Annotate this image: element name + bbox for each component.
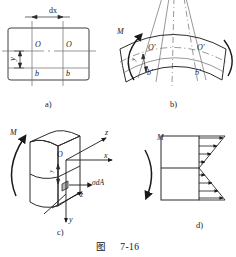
panel-d-label-moment: M bbox=[157, 134, 164, 142]
figure-caption-number: 7-16 bbox=[120, 242, 139, 252]
panel-d-moment-arrow bbox=[145, 150, 152, 196]
panel-a-label-b-left: b bbox=[35, 70, 39, 78]
figure-caption: 图 7-16 bbox=[0, 239, 236, 253]
beam-left-edge bbox=[120, 49, 126, 82]
block-front-face bbox=[30, 140, 58, 207]
panel-a-label-b-right: b bbox=[66, 70, 70, 78]
dx-arrow-left bbox=[32, 15, 37, 19]
panel-c-label-axis-z-lower: z bbox=[80, 191, 83, 199]
axis-z-lower-arrow bbox=[52, 192, 82, 208]
panel-a-tag: a) bbox=[45, 100, 52, 109]
figure-caption-prefix: 图 bbox=[96, 241, 107, 252]
panel-b-drawing bbox=[114, 0, 236, 110]
panel-b-label-origin-left: O' bbox=[148, 44, 156, 52]
stress-element-fill bbox=[62, 181, 68, 191]
panel-d-tag: d) bbox=[196, 221, 203, 230]
y-arrow-down bbox=[18, 63, 21, 68]
panel-c-drawing bbox=[0, 124, 130, 236]
panel-b-label-b-left: b' bbox=[147, 69, 153, 77]
panel-d-drawing bbox=[125, 124, 236, 236]
beam-right-edge bbox=[222, 49, 226, 80]
axis-z-lower-line bbox=[44, 194, 66, 214]
panel-a-label-origin-left: O bbox=[35, 41, 41, 49]
dx-arrow-right bbox=[58, 15, 63, 19]
panel-a-label-origin-right: O bbox=[66, 41, 72, 49]
panel-a-drawing bbox=[0, 0, 118, 110]
panel-c-label-axis-z-upper: z bbox=[105, 129, 108, 137]
fiber-arc-bb bbox=[123, 58, 224, 73]
panel-c-moment-arrow bbox=[12, 138, 25, 196]
axis-z-upper-line bbox=[66, 138, 106, 160]
panel-c-label-y: y bbox=[48, 170, 55, 173]
panel-c-label-force: σdA bbox=[92, 179, 104, 187]
y-arrow-up bbox=[18, 51, 21, 56]
stress-triangle-lower bbox=[199, 168, 225, 200]
panel-a-label-dx: dx bbox=[49, 7, 57, 15]
panel-b-tag: b) bbox=[170, 100, 177, 109]
panel-c-label-axis-y: y bbox=[69, 216, 73, 224]
block-side-divider bbox=[58, 166, 80, 177]
figure-7-16: dx O O y b b a) bbox=[0, 0, 236, 257]
panel-c-tag: c) bbox=[57, 228, 64, 237]
block-top-face bbox=[30, 131, 80, 146]
panel-b-label-moment: M bbox=[117, 28, 124, 36]
panel-b-label-origin-right: O' bbox=[197, 44, 205, 52]
panel-a-label-y: y bbox=[9, 57, 17, 61]
panel-c-label-origin: O bbox=[57, 151, 63, 159]
panel-c-label-axis-x: x bbox=[104, 152, 108, 160]
panel-c-label-moment: M bbox=[10, 129, 17, 137]
panel-c-y-arrow-up bbox=[57, 164, 60, 169]
panel-c-y-arrow-down bbox=[57, 179, 60, 184]
yprime-arrow-up bbox=[142, 54, 145, 59]
block-front-divider bbox=[30, 174, 58, 178]
radius-centerline bbox=[172, 0, 174, 86]
panel-b-label-b-right: b' bbox=[195, 69, 201, 77]
stress-triangle-upper bbox=[199, 136, 225, 168]
